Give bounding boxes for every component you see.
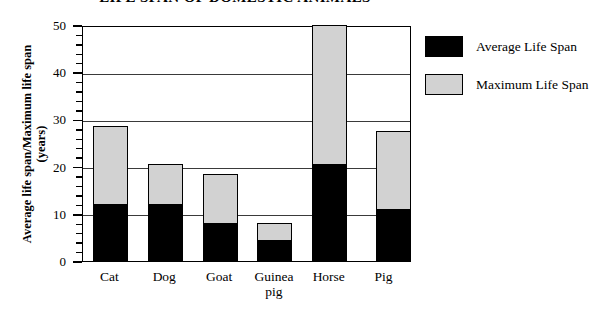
y-tick-label-50: 50	[40, 19, 66, 32]
legend: Average Life SpanMaximum Life Span	[425, 36, 610, 112]
legend-swatch-average	[425, 36, 463, 57]
bar-group[interactable]	[312, 25, 347, 261]
y-tick-label-40: 40	[40, 66, 66, 79]
y-tick-label-30: 30	[40, 113, 66, 126]
y-tick-label-20: 20	[40, 161, 66, 174]
bar-group[interactable]	[203, 174, 238, 261]
y-tick-major-50	[73, 25, 82, 27]
bar-segment-average[interactable]	[312, 164, 347, 261]
legend-item[interactable]: Average Life Span	[425, 36, 610, 57]
x-axis-label-line: pig	[229, 285, 319, 300]
y-tick-label-0: 0	[40, 255, 66, 268]
bar-segment-average[interactable]	[376, 209, 411, 261]
y-tick-label-10: 10	[40, 208, 66, 221]
y-axis-title-text: Average life span/Maximum life span	[20, 45, 34, 243]
y-tick-major-20	[73, 167, 82, 169]
x-axis-label-pig: Pig	[339, 270, 429, 285]
y-axis-title: Average life span/Maximum life span (yea…	[20, 24, 48, 264]
bar-segment-average[interactable]	[93, 204, 128, 261]
bar-group[interactable]	[148, 164, 183, 261]
chart-title: LIFE SPAN OF DOMESTIC ANIMALS	[0, 0, 470, 6]
y-tick-major-0	[73, 261, 82, 263]
legend-label: Average Life Span	[476, 39, 577, 55]
legend-swatch-maximum	[425, 74, 463, 95]
plot-area	[82, 26, 411, 262]
bar-segment-average[interactable]	[148, 204, 183, 261]
gridline-20	[83, 168, 410, 169]
bar-segment-average[interactable]	[257, 240, 292, 261]
y-tick-major-10	[73, 214, 82, 216]
gridline-40	[83, 74, 410, 75]
legend-label: Maximum Life Span	[476, 77, 588, 93]
bar-group[interactable]	[93, 126, 128, 261]
y-axis-unit-text: (years)	[34, 24, 48, 264]
bar-group[interactable]	[376, 131, 411, 261]
y-tick-major-30	[73, 120, 82, 122]
gridline-10	[83, 215, 410, 216]
bar-group[interactable]	[257, 223, 292, 261]
gridline-30	[83, 121, 410, 122]
x-axis-label-line: Pig	[339, 270, 429, 285]
bar-segment-average[interactable]	[203, 223, 238, 261]
legend-item[interactable]: Maximum Life Span	[425, 74, 610, 95]
y-tick-major-40	[73, 72, 82, 74]
